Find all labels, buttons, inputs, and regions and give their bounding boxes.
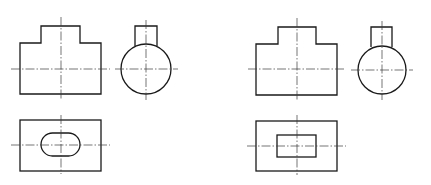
top-view: [11, 115, 110, 174]
drawing-left: [11, 17, 178, 174]
top-view: [247, 115, 346, 175]
slot-hole: [41, 133, 80, 156]
drawing-right: [247, 18, 413, 175]
front-view: [11, 17, 110, 99]
side-view: [115, 20, 178, 100]
top-view-outline: [20, 120, 101, 171]
front-view: [248, 18, 346, 100]
front-view-outline: [20, 26, 101, 94]
technical-drawing-canvas: [0, 0, 431, 185]
front-view-outline: [256, 27, 337, 95]
side-view-boss: [371, 27, 392, 47]
side-view: [351, 21, 413, 100]
